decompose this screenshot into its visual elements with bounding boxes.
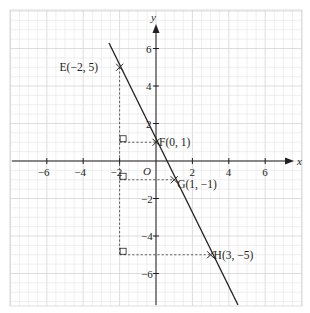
origin-label: O — [143, 165, 151, 177]
y-axis-arrow-icon — [153, 24, 160, 33]
x-tick-label: −6 — [38, 166, 50, 178]
point-label: H(3, −5) — [214, 249, 254, 262]
y-tick-label: 4 — [146, 80, 152, 92]
x-tick-label: −2 — [111, 166, 123, 178]
point-label: E(−2, 5) — [60, 61, 99, 74]
line-y-eq-neg2x-plus-1 — [109, 43, 238, 305]
x-tick-label: 6 — [262, 166, 268, 178]
y-axis-label: y — [150, 11, 156, 23]
point-label: F(0, 1) — [159, 136, 190, 149]
axes: x y O — [12, 11, 302, 305]
x-axis-label: x — [296, 155, 302, 167]
right-angle-icon — [120, 248, 126, 254]
coordinate-plane: x y O −6−4−2246642−2−4−6 E(−2, 5)F(0, 1)… — [0, 0, 310, 313]
point-E: E(−2, 5) — [60, 61, 124, 74]
point-H: H(3, −5) — [207, 249, 253, 262]
graph-line — [109, 43, 238, 305]
point-G: G(1, −1) — [171, 176, 217, 191]
y-tick-label: −6 — [141, 268, 153, 280]
x-tick-label: 4 — [226, 166, 232, 178]
point-label: G(1, −1) — [177, 178, 217, 191]
x-tick-label: −4 — [74, 166, 86, 178]
y-tick-label: 6 — [146, 43, 152, 55]
right-angle-icon — [120, 136, 126, 142]
point-F: F(0, 1) — [153, 136, 191, 149]
y-tick-label: −4 — [141, 230, 153, 242]
x-tick-label: 2 — [189, 166, 195, 178]
y-tick-label: −2 — [141, 193, 153, 205]
